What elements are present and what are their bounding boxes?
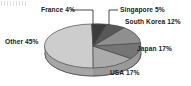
pie-chart: France 4% Singapore 5% South Korea 12% J… [0, 0, 191, 86]
slice-label-singapore: Singapore 5% [120, 6, 165, 14]
slice-label-japan: Japan 17% [137, 45, 172, 53]
leader-lines [71, 10, 118, 25]
slice-label-south-korea: South Korea 12% [125, 18, 181, 26]
singapore-leader-line [109, 10, 118, 25]
pie-top-face [44, 24, 140, 68]
slice-label-france: France 4% [41, 6, 75, 14]
slice-label-other: Other 45% [5, 38, 39, 46]
slice-label-usa: USA 17% [110, 69, 139, 77]
